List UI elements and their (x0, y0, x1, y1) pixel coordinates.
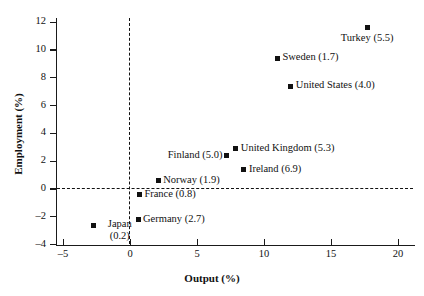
x-tick-mark (63, 239, 64, 245)
data-point-label-japan-line1: Japan (98, 218, 142, 230)
data-point-label-united-states: United States (4.0) (296, 79, 375, 90)
y-tick-mark (50, 105, 56, 106)
y-tick-label: 8 (20, 71, 46, 82)
x-tick-mark (331, 239, 332, 245)
x-axis-title: Output (%) (0, 272, 424, 284)
y-tick-mark (50, 244, 56, 245)
data-point-united-kingdom[interactable] (233, 146, 238, 151)
y-tick-label: 12 (20, 15, 46, 26)
x-tick-label: –5 (43, 248, 83, 259)
data-point-norway[interactable] (156, 178, 161, 183)
y-axis-spine (56, 18, 57, 246)
x-tick-label: 10 (244, 248, 284, 259)
y-tick-label: –2 (20, 210, 46, 221)
y-tick-mark (50, 216, 56, 217)
x-tick-label: 20 (378, 248, 418, 259)
y-tick-mark (50, 188, 56, 189)
y-tick-label: 6 (20, 99, 46, 110)
x-tick-label: 0 (110, 248, 150, 259)
data-point-label-norway: Norway (1.9) (163, 174, 220, 185)
data-point-label-sweden: Sweden (1.7) (282, 51, 338, 62)
data-point-turkey[interactable] (365, 25, 370, 30)
x-axis-spine (56, 245, 415, 246)
data-point-label-united-kingdom: United Kingdom (5.3) (241, 142, 335, 153)
data-point-france[interactable] (137, 192, 142, 197)
data-point-japan[interactable] (91, 223, 96, 228)
x-tick-label: 5 (177, 248, 217, 259)
data-point-label-japan-line2: (0.2) (98, 230, 142, 242)
data-point-label-france: France (0.8) (144, 188, 195, 199)
y-tick-mark (50, 22, 56, 23)
data-point-label-germany: Germany (2.7) (143, 213, 205, 224)
scatter-chart: Output (%) Employment (%) –505101520–4–2… (0, 0, 424, 296)
data-point-label-turkey: Turkey (5.5) (307, 32, 424, 43)
y-tick-mark (50, 77, 56, 78)
y-tick-label: –4 (20, 238, 46, 249)
data-point-ireland[interactable] (241, 167, 246, 172)
reference-line-y-zero (57, 188, 413, 189)
y-tick-mark (50, 49, 56, 50)
x-tick-label: 15 (311, 248, 351, 259)
x-tick-mark (197, 239, 198, 245)
x-tick-mark (264, 239, 265, 245)
y-tick-mark (50, 161, 56, 162)
y-tick-label: 0 (20, 182, 46, 193)
x-tick-mark (398, 239, 399, 245)
reference-line-x-zero (129, 18, 130, 244)
data-point-sweden[interactable] (275, 56, 280, 61)
data-point-label-ireland: Ireland (6.9) (249, 163, 301, 174)
y-tick-label: 4 (20, 126, 46, 137)
data-point-finland[interactable] (224, 153, 229, 158)
y-tick-label: 10 (20, 43, 46, 54)
data-point-label-finland: Finland (5.0) (102, 149, 222, 160)
data-point-united-states[interactable] (288, 84, 293, 89)
y-tick-label: 2 (20, 154, 46, 165)
data-point-label-japan: Japan(0.2) (98, 218, 142, 242)
y-tick-mark (50, 133, 56, 134)
